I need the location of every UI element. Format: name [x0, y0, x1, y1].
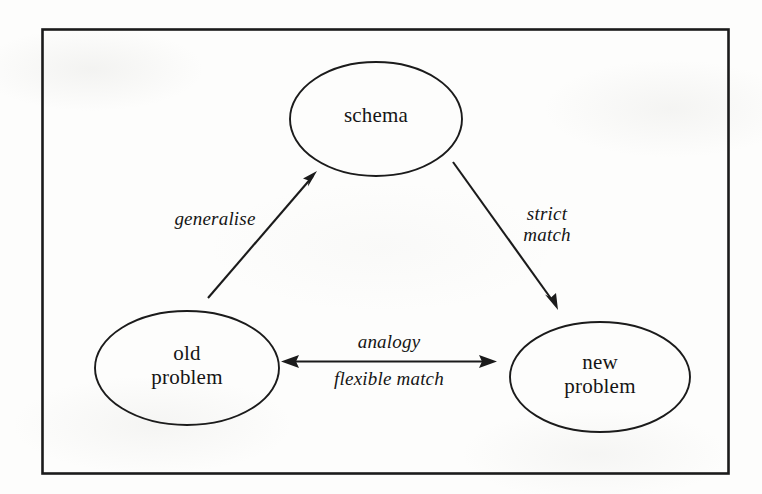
node-schema-label: schema — [306, 104, 446, 128]
edge-analogy-label-above: analogy — [319, 331, 459, 352]
edge-analogy-arrow — [281, 355, 497, 368]
node-old-problem-label-line2: problem — [117, 366, 257, 390]
edge-flexible-match-label-text: flexible match — [304, 368, 474, 389]
node-new-problem-label-line2: problem — [530, 375, 670, 399]
node-old-problem-label-line1: old — [117, 342, 257, 366]
edge-strict-match-label: strict match — [487, 203, 607, 246]
edge-generalise-label-line1: generalise — [140, 208, 290, 229]
edge-strict-match-label-line2: match — [487, 224, 607, 245]
edge-strict-match-label-line1: strict — [487, 203, 607, 224]
node-schema-label-line1: schema — [306, 104, 446, 128]
edge-analogy-label-below: flexible match — [304, 368, 474, 389]
node-old-problem-label: old problem — [117, 342, 257, 389]
edge-generalise-label: generalise — [140, 208, 290, 229]
edge-generalise-arrow — [208, 171, 317, 298]
node-new-problem-label: new problem — [530, 351, 670, 398]
figure-border — [43, 30, 729, 474]
diagram-svg — [0, 0, 762, 494]
edge-analogy-label-text: analogy — [319, 331, 459, 352]
node-new-problem-label-line1: new — [530, 351, 670, 375]
figure-canvas: schema old problem new problem generalis… — [0, 0, 762, 494]
